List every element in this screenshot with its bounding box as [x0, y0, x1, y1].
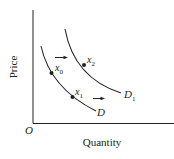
y-axis-label: Price	[7, 56, 19, 79]
curve-label-d: D	[96, 106, 105, 118]
point-label-x2: x2	[86, 54, 95, 68]
x-axis-label: Quantity	[83, 136, 122, 148]
point-x1	[71, 95, 75, 99]
shift-arrow-upper-icon	[55, 56, 68, 59]
shift-arrow-lower-icon	[93, 97, 105, 100]
origin-label: O	[25, 124, 33, 136]
point-x0	[50, 71, 54, 75]
demand-diagram: Price Quantity O D D1 x0 x1 x2	[0, 0, 174, 159]
curve-label-d1: D1	[123, 88, 136, 103]
point-label-x0: x0	[54, 62, 63, 76]
point-x2	[82, 63, 86, 67]
